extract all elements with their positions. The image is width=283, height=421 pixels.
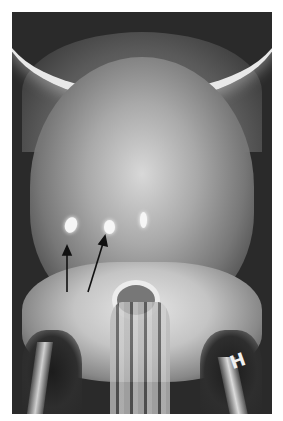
arrowhead-icon	[63, 246, 71, 255]
arrow-icon	[88, 240, 104, 292]
xray-image: H	[12, 12, 272, 414]
arrowhead-icon	[99, 236, 107, 246]
